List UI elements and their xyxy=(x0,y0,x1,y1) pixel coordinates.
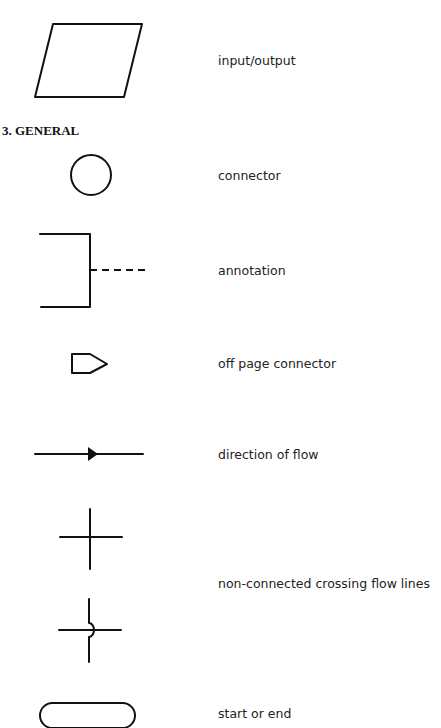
direction-of-flow-arrow-icon xyxy=(35,447,143,461)
section-heading: 3. GENERAL xyxy=(2,123,79,139)
input-output-parallelogram-icon xyxy=(35,24,142,97)
label-start-or-end: start or end xyxy=(218,706,291,721)
label-annotation: annotation xyxy=(218,263,286,278)
label-crossing-flow-lines: non-connected crossing flow lines xyxy=(218,576,430,591)
off-page-connector-icon xyxy=(72,354,107,373)
crossing-lines-plain-icon xyxy=(60,509,122,569)
start-end-terminal-icon xyxy=(40,703,135,728)
label-connector: connector xyxy=(218,168,281,183)
annotation-bracket-icon xyxy=(40,234,147,307)
label-direction-of-flow: direction of flow xyxy=(218,447,319,462)
crossing-lines-hop-icon xyxy=(59,599,121,662)
connector-circle-icon xyxy=(71,155,111,195)
label-input-output: input/output xyxy=(218,53,296,68)
label-off-page-connector: off page connector xyxy=(218,356,336,371)
